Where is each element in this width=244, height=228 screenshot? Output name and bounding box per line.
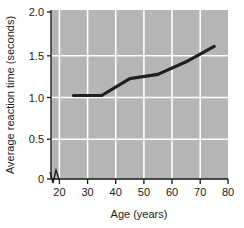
ytick-label-2.0: 2.0: [29, 6, 44, 18]
xtick-label-50: 50: [138, 186, 150, 198]
xtick-label-60: 60: [166, 186, 178, 198]
xtick-label-70: 70: [194, 186, 206, 198]
ytick-label-1.0: 1.0: [29, 92, 44, 104]
chart-figure: 0 0.5 1.0 1.5 2.0 20 30 40 50 60 70 80 A…: [0, 0, 244, 228]
x-axis-title: Age (years): [111, 208, 168, 220]
xtick-label-20: 20: [53, 186, 65, 198]
xtick-label-80: 80: [222, 186, 234, 198]
xtick-label-30: 30: [81, 186, 93, 198]
y-axis-title: Average reaction time (seconds): [4, 16, 16, 174]
ytick-label-0.5: 0.5: [29, 133, 44, 145]
ytick-label-1.5: 1.5: [29, 50, 44, 62]
xtick-label-40: 40: [110, 186, 122, 198]
reaction-time-line-chart: 0 0.5 1.0 1.5 2.0 20 30 40 50 60 70 80 A…: [0, 0, 244, 228]
ytick-label-0: 0: [38, 173, 44, 185]
